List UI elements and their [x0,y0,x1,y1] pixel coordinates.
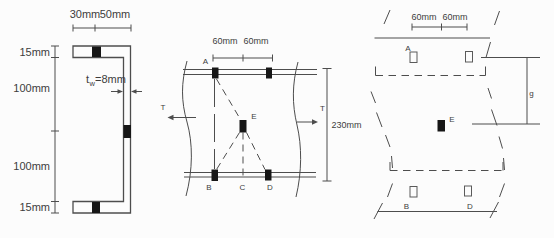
hole-a [410,52,417,63]
bolt-label-d: D [267,183,273,192]
engineering-diagram: 30mm 50mm 15mm 100mm 100mm 15mm t w =8mm [0,0,554,238]
top-dimension-line [73,25,131,32]
flange-dim-30-label: 30mm [70,8,101,20]
height-dimension-line [323,69,332,182]
hole-label-b: B [404,202,409,211]
bolt-web [124,125,132,138]
bolt-top-right [266,68,272,79]
dim-upper-web-label: 100mm [13,82,50,94]
break-line-left [183,61,192,196]
hole-label-d: D [467,202,473,211]
height-dim-label: 230mm [332,120,362,130]
pitch-dim-right-label: 60mm [243,36,268,46]
bolt-e-right-view [438,120,446,132]
break-marks-left-edge [371,92,393,169]
force-arrow-left: T [161,103,196,120]
bolt-top-flange [92,47,101,58]
bolt-b [212,170,219,182]
hole-d [465,186,472,196]
force-arrow-right: T [297,104,325,125]
bolt-label-b: B [206,183,211,192]
flange-dim-50-label: 50mm [100,8,131,20]
channel-section-view: 30mm 50mm 15mm 100mm 100mm 15mm t w =8mm [13,8,142,213]
dim-bottom-flange-label: 15mm [19,201,50,213]
pitch-dimension-line [213,55,273,62]
web-thickness-value: =8mm [95,73,126,85]
jag-top-right [486,42,491,58]
fold-line-upper [376,67,486,76]
gauge-label: g [529,89,533,98]
web-thickness-callout: t w =8mm [86,73,142,94]
bolt-d [265,170,272,181]
gauge-dimension-line [412,24,467,31]
hole-top-right [466,52,473,63]
gauge-dim-right-label: 60mm [442,12,467,22]
bolt-label-e: E [251,112,256,121]
side-dimension-line [51,46,59,213]
bolt-e [240,120,247,133]
bolt-bottom-flange [92,202,100,213]
force-left-label: T [161,103,166,112]
channel-outline [73,46,131,213]
dim-top-flange-label: 15mm [19,46,50,58]
bolt-a [212,68,219,79]
hole-b [410,187,417,198]
break-marks-right-edge [488,88,505,170]
bolt-label-a: A [203,57,209,66]
break-marks-bottom-edge [374,202,499,219]
dim-lower-web-label: 100mm [13,160,50,172]
bolt-label-e-right: E [449,115,454,124]
break-marks-bottom [388,184,505,198]
bolt-layout-view: 60mm 60mm A B C D E T [161,36,362,197]
pitch-dim-left-label: 60mm [212,36,237,46]
bolt-label-c: C [240,183,246,192]
force-right-label: T [320,104,325,113]
gauge-dim-left-label: 60mm [411,12,436,22]
fold-line-lower [390,162,503,171]
gauge-layout-view: 60mm 60mm A g [371,10,540,219]
